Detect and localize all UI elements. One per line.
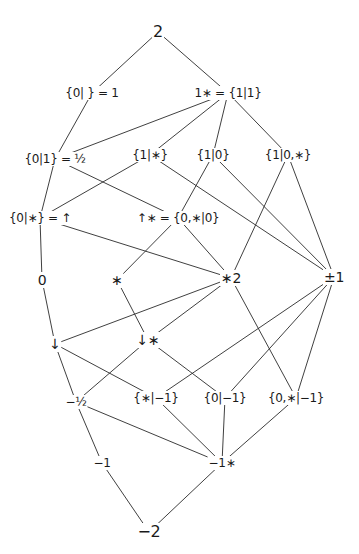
edge-n1_0star-npm1	[288, 155, 334, 277]
node-nstar2: ∗2	[220, 270, 242, 286]
edge-n2-n1	[92, 32, 158, 93]
edge-n1star-n1_star	[150, 93, 228, 155]
node-n0star_m1: {0,∗|−1}	[267, 391, 325, 405]
node-n1_star: {1|∗}	[131, 148, 169, 162]
edge-layer	[0, 0, 359, 554]
node-ndownstar: ↓∗	[136, 332, 161, 348]
node-nhalf: {0|1} = ½	[23, 152, 86, 166]
edge-nupstar-nstar2	[178, 218, 231, 278]
edge-ndown-nmhalf	[55, 344, 76, 402]
edge-npm1-nstar_m1	[156, 277, 334, 398]
edge-nup-n0	[40, 218, 42, 280]
node-n0: 0	[37, 272, 48, 288]
node-nm1star: −1∗	[208, 456, 237, 470]
node-nm1: −1	[92, 456, 111, 470]
edge-n1_0-npm1	[213, 155, 334, 277]
node-n1_0star: {1|0,∗}	[264, 148, 312, 162]
edge-nhalf-nupstar	[55, 159, 178, 218]
node-nupstar: ↑∗ = {0,∗|0}	[136, 211, 221, 225]
lattice-diagram: 2{0| } = 11∗ = {1|1}{0|1} = ½{1|∗}{1|0}{…	[0, 0, 359, 554]
edge-ndownstar-n0_m1	[148, 340, 225, 398]
edge-nstar2-ndownstar	[148, 278, 231, 340]
node-n0_m1: {0|−1}	[203, 391, 248, 405]
node-n1star: 1∗ = {1|1}	[194, 86, 263, 100]
node-n1_0: {1|0}	[195, 148, 230, 162]
edge-nhalf-nup	[40, 159, 55, 218]
edge-npm1-n0_m1	[225, 277, 334, 398]
edge-n1star-n1_0star	[228, 93, 288, 155]
node-ndown: ↓	[48, 336, 61, 352]
node-nstar: ∗	[110, 272, 123, 288]
edge-n1star-n1_0	[213, 93, 228, 155]
edge-npm1-n0star_m1	[296, 277, 334, 398]
edge-n1-nhalf	[55, 93, 92, 159]
node-n1: {0| } = 1	[64, 86, 119, 100]
edge-nupstar-nstar	[117, 218, 178, 280]
edge-ndown-nstar_m1	[55, 344, 156, 398]
node-nm2: −2	[137, 523, 162, 541]
edge-nup-nstar2	[40, 218, 231, 278]
node-nstar_m1: {∗|−1}	[132, 391, 179, 405]
edge-n0star_m1-nm1star	[222, 398, 296, 463]
edge-n1_0-nupstar	[178, 155, 213, 218]
edge-nstar-ndownstar	[117, 280, 148, 340]
node-n2: 2	[152, 23, 164, 41]
node-npm1: ±1	[323, 269, 345, 285]
edge-n2-n1star	[158, 32, 228, 93]
node-nup: {0|∗} = ↑	[8, 211, 72, 225]
edge-n1_0star-nstar2	[231, 155, 288, 278]
edge-n0_m1-nm1star	[222, 398, 225, 463]
node-nmhalf: −½	[64, 395, 87, 409]
edge-nstar_m1-nm1star	[156, 398, 222, 463]
edge-n0-ndown	[42, 280, 55, 344]
